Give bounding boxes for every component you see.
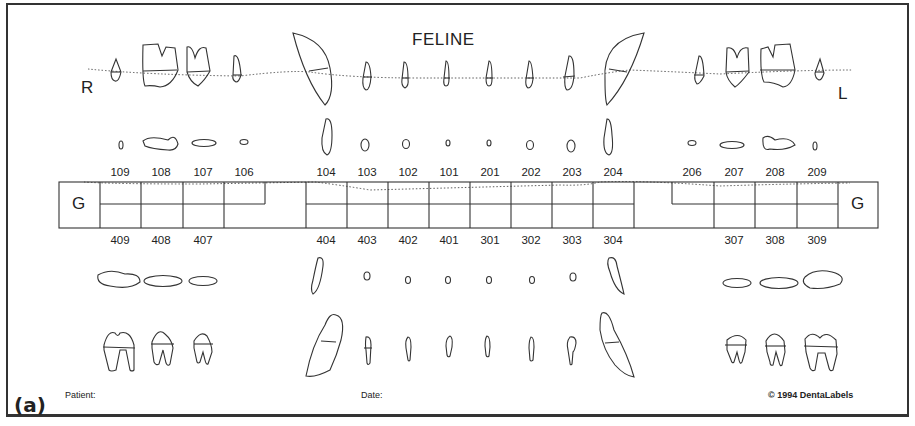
date-label: Date: bbox=[361, 390, 383, 400]
tooth-number: 409 bbox=[100, 234, 140, 246]
lower-teeth bbox=[103, 313, 838, 377]
tooth-number: 203 bbox=[552, 166, 592, 178]
gingiva-label-right: G bbox=[72, 194, 85, 214]
tooth-number: 207 bbox=[714, 166, 754, 178]
tooth-number: 309 bbox=[797, 234, 837, 246]
tooth-number: 103 bbox=[347, 166, 387, 178]
tooth-number: 108 bbox=[141, 166, 181, 178]
tooth-number: 102 bbox=[388, 166, 428, 178]
tooth-number: 202 bbox=[511, 166, 551, 178]
tooth-number: 308 bbox=[755, 234, 795, 246]
patient-label: Patient: bbox=[65, 390, 96, 400]
chart-grid bbox=[59, 182, 878, 228]
tooth-number: 107 bbox=[183, 166, 223, 178]
upper-teeth bbox=[111, 33, 824, 105]
tooth-number: 401 bbox=[429, 234, 469, 246]
tooth-number: 208 bbox=[755, 166, 795, 178]
tooth-number: 407 bbox=[183, 234, 223, 246]
tooth-number: 404 bbox=[306, 234, 346, 246]
figure-label: (a) bbox=[14, 393, 46, 417]
tooth-diagram bbox=[0, 0, 915, 426]
tooth-number: 106 bbox=[224, 166, 264, 178]
tooth-number: 201 bbox=[470, 166, 510, 178]
copyright-text: © 1994 DentaLabels bbox=[768, 390, 853, 400]
tooth-number: 307 bbox=[714, 234, 754, 246]
tooth-number: 408 bbox=[141, 234, 181, 246]
lower-occlusal-views bbox=[98, 258, 842, 294]
tooth-number: 303 bbox=[552, 234, 592, 246]
tooth-number: 101 bbox=[429, 166, 469, 178]
tooth-number: 104 bbox=[306, 166, 346, 178]
tooth-number: 209 bbox=[797, 166, 837, 178]
upper-occlusal-views bbox=[119, 119, 817, 155]
tooth-number: 302 bbox=[511, 234, 551, 246]
tooth-number: 304 bbox=[593, 234, 633, 246]
tooth-number: 301 bbox=[470, 234, 510, 246]
tooth-number: 204 bbox=[593, 166, 633, 178]
tooth-number: 109 bbox=[100, 166, 140, 178]
tooth-number: 402 bbox=[388, 234, 428, 246]
gingiva-label-left: G bbox=[851, 194, 864, 214]
tooth-number: 403 bbox=[347, 234, 387, 246]
tooth-number: 206 bbox=[672, 166, 712, 178]
